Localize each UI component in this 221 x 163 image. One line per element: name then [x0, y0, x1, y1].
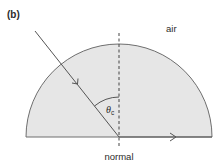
critical-angle-diagram: (b) air normal θc: [0, 0, 221, 163]
air-label: air: [166, 23, 177, 34]
panel-label: (b): [7, 9, 20, 20]
normal-label: normal: [104, 151, 133, 162]
